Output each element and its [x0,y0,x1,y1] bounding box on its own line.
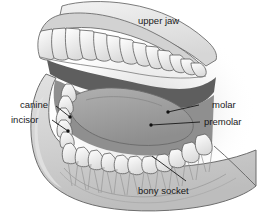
label-molar: molar [212,99,236,110]
endpoint-molar [166,110,169,113]
label-incisor: incisor [11,114,38,125]
label-bony-socket: bony socket [138,185,189,196]
endpoint-premolar [149,123,152,126]
endpoint-canine [68,115,71,118]
diagram-canvas: upper jaw canine incisor molar premolar … [0,0,260,219]
jaw-anatomy-diagram: upper jaw canine incisor molar premolar … [0,0,260,219]
label-upper-jaw: upper jaw [138,15,179,26]
endpoint-incisor [66,129,69,132]
label-canine: canine [20,99,48,110]
label-premolar: premolar [204,116,242,127]
